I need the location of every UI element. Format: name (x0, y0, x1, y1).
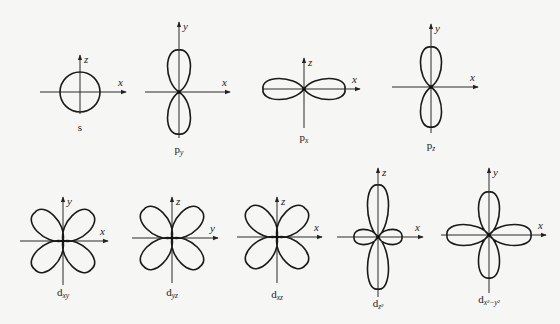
horizontal-axis-label: x (414, 221, 420, 233)
horizontal-axis-label: x (537, 219, 543, 231)
vertical-axis-label: y (66, 195, 72, 207)
orbital-px: xz (262, 56, 360, 128)
vertical-axis-label: z (175, 195, 181, 207)
orbital-py: xy (145, 20, 230, 138)
vertical-axis-label: y (182, 20, 188, 32)
orbital-s: xz (40, 53, 126, 114)
horizontal-axis-label: x (313, 221, 319, 233)
orbital-diagram: xzxyxzxyxyyzxzxzxy (0, 0, 560, 324)
orbital-dxy: xy (20, 195, 108, 285)
vertical-axis-label: z (381, 166, 387, 178)
nucleus-dot (429, 85, 433, 89)
orbital-dz2: xz (337, 166, 423, 297)
orbital-dyz: yz (132, 195, 218, 283)
nucleus-dot (275, 235, 279, 239)
nucleus-dot (487, 233, 491, 237)
vertical-axis-label: z (83, 53, 89, 65)
nucleus-dot (177, 90, 181, 94)
vertical-axis-label: z (280, 195, 286, 207)
horizontal-axis-label: x (221, 76, 227, 88)
vertical-axis-label: y (434, 22, 440, 34)
orbital-pz: xy (392, 22, 478, 133)
vertical-axis-label: z (307, 56, 313, 68)
nucleus-dot (302, 87, 306, 91)
orbitals-layer: xzxyxzxyxyyzxzxzxy (20, 20, 546, 297)
vertical-axis-label: y (492, 166, 498, 178)
orbital-dx2y2: xy (441, 166, 546, 293)
nucleus-dot (376, 235, 380, 239)
orbital-dxz: xz (237, 195, 322, 283)
horizontal-axis-label: x (469, 71, 475, 83)
horizontal-axis-label: y (209, 222, 215, 234)
horizontal-axis-label: x (117, 76, 123, 88)
horizontal-axis-label: x (351, 73, 357, 85)
nucleus-dot (170, 236, 174, 240)
horizontal-axis-label: x (99, 225, 105, 237)
nucleus-dot (61, 239, 65, 243)
